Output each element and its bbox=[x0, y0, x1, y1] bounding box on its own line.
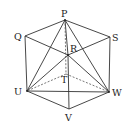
vertex-W bbox=[108, 91, 110, 93]
edge-PQ bbox=[25, 20, 65, 36]
edge-PU bbox=[27, 20, 65, 91]
edge-TW bbox=[66, 74, 109, 92]
label-P: P bbox=[61, 8, 68, 19]
edge-QR bbox=[25, 36, 68, 55]
edge-UW bbox=[27, 91, 109, 92]
edge-SP bbox=[65, 20, 110, 37]
vertex-U bbox=[26, 90, 28, 92]
solid-edges bbox=[25, 20, 110, 109]
edge-RU bbox=[27, 55, 68, 91]
label-S: S bbox=[112, 32, 119, 43]
label-T: T bbox=[61, 74, 68, 85]
edge-RV bbox=[68, 55, 69, 109]
label-U: U bbox=[14, 86, 22, 97]
label-R: R bbox=[70, 43, 78, 54]
label-W: W bbox=[112, 87, 122, 98]
edge-PW bbox=[65, 20, 109, 92]
edge-WS bbox=[109, 37, 110, 92]
vertex-P bbox=[64, 19, 66, 21]
edge-UV bbox=[27, 91, 69, 109]
cube-diagram: P Q S R T U W V bbox=[0, 0, 126, 130]
label-V: V bbox=[64, 112, 72, 123]
edge-QU bbox=[25, 36, 27, 91]
edge-VW bbox=[69, 92, 109, 109]
label-Q: Q bbox=[14, 31, 22, 42]
vertex-R bbox=[67, 54, 69, 56]
edge-RW bbox=[68, 55, 109, 92]
